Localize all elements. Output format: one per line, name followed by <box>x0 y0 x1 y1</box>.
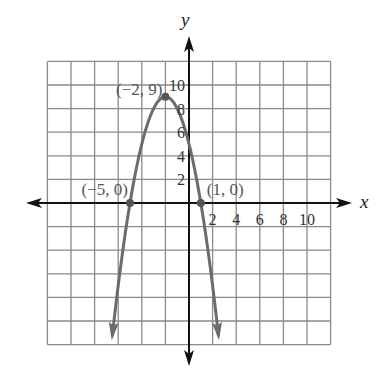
point-marker <box>161 93 169 101</box>
x-axis-label: x <box>359 191 369 212</box>
x-tick-label: 8 <box>279 211 287 228</box>
y-tick-label: 6 <box>177 124 185 141</box>
x-tick-label: 2 <box>209 211 217 228</box>
y-tick-label: 4 <box>177 148 185 165</box>
x-tick-label: 6 <box>256 211 264 228</box>
x-tick-label: 4 <box>232 211 240 228</box>
y-tick-label: 8 <box>177 101 185 118</box>
y-axis-label: y <box>179 9 190 30</box>
point-label: (−2, 9) <box>116 80 162 99</box>
point-marker <box>126 199 134 207</box>
point-label: (1, 0) <box>207 180 244 199</box>
y-tick-label: 2 <box>177 171 185 188</box>
point-marker <box>197 199 205 207</box>
x-tick-label: 10 <box>299 211 315 228</box>
y-tick-label: 10 <box>169 77 185 94</box>
parabola-chart: 246810246810 (−2, 9)(−5, 0)(1, 0) x y <box>0 0 389 379</box>
point-label: (−5, 0) <box>82 180 128 199</box>
